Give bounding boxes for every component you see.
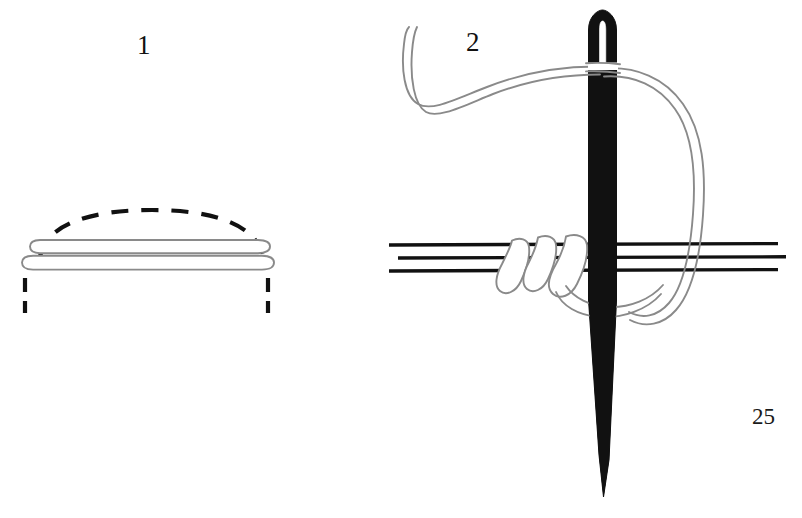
thread-loop-lower [22,256,274,270]
thread-loop-right-inner [604,76,694,316]
figure-label-1: 1 [137,32,151,59]
figure-label-2: 2 [466,29,480,56]
page-number: 25 [752,405,775,428]
stitch-illustration [0,0,802,518]
thread-coils [496,235,663,317]
stitch-step-1-diagram [22,210,274,313]
illustration-page: 1 2 25 [0,0,802,518]
thread-loop-upper [30,240,270,253]
thread-tail-inner [412,27,600,114]
stitch-step-2-diagram [389,10,786,497]
thread-loop-right [603,68,704,324]
needle-eye [600,21,606,66]
thread-tail [403,27,600,106]
